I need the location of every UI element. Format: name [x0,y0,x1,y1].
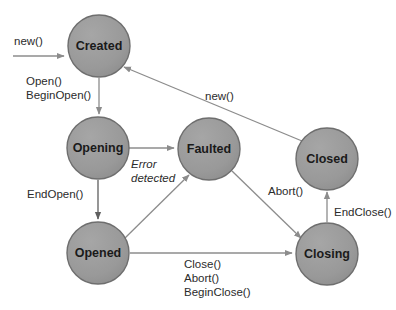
label-close-line-0: Close() [184,258,221,270]
state-label-closing: Closing [304,247,350,261]
state-label-faulted: Faulted [187,142,231,156]
label-new-start: new() [14,35,43,47]
state-diagram: CreatedOpeningFaultedClosedOpenedClosing… [0,0,396,310]
label-endopen: EndOpen() [27,188,83,200]
label-open-line-0: Open() [26,75,62,87]
label-abort-line-0: Abort() [268,185,303,197]
nodes-layer: CreatedOpeningFaultedClosedOpenedClosing [67,15,358,285]
label-close: Close()Abort()BeginClose() [184,258,251,298]
state-diagram-canvas: CreatedOpeningFaultedClosedOpenedClosing… [0,0,396,310]
state-node-opening[interactable]: Opening [67,117,129,179]
label-endclose-line-0: EndClose() [334,206,392,218]
state-label-closed: Closed [306,152,348,166]
label-error: Errordetected [131,158,176,184]
label-new-start-line-0: new() [14,35,43,47]
label-error-line-1: detected [131,172,176,184]
state-node-closing[interactable]: Closing [296,223,358,285]
label-open-line-1: BeginOpen() [26,89,91,101]
label-endclose: EndClose() [334,206,392,218]
label-new-return-line-0: new() [205,90,234,102]
state-label-opening: Opening [73,141,124,155]
state-node-closed[interactable]: Closed [296,128,358,190]
label-error-line-0: Error [131,158,158,170]
edge-opened-to-faulted [125,175,189,238]
state-node-faulted[interactable]: Faulted [178,118,240,180]
label-abort: Abort() [268,185,303,197]
state-node-opened[interactable]: Opened [67,222,129,284]
label-open: Open()BeginOpen() [26,75,91,101]
state-label-created: Created [76,39,123,53]
label-new-return: new() [205,90,234,102]
edge-faulted-to-closing [232,171,301,238]
label-endopen-line-0: EndOpen() [27,188,83,200]
state-node-created[interactable]: Created [68,15,130,77]
label-close-line-1: Abort() [184,272,219,284]
state-label-opened: Opened [75,246,122,260]
label-close-line-2: BeginClose() [184,286,251,298]
